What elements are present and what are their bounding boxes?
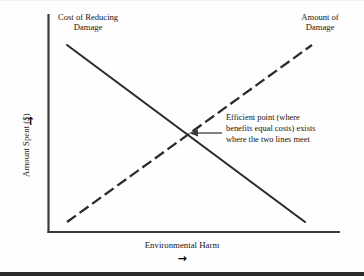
cost-of-reducing-damage-label: Cost of Reducing Damage [58,12,118,32]
damage-label-line-2: Damage [289,22,351,32]
page-bottom-edge [0,272,364,276]
x-axis-arrow-icon: → [0,253,364,266]
y-axis-arrow-icon: ↑ [26,116,35,129]
x-axis-label: Environmental Harm [0,240,364,250]
efficient-point-annotation: Efficient point (where benefits equal co… [226,112,316,145]
figure-canvas: Cost of Reducing Damage Amount of Damage… [0,0,364,280]
y-axis-label: Amount Spent ($) [21,75,31,215]
annotation-line-3: where the two lines meet [226,134,316,145]
cost-label-line-1: Cost of Reducing [58,12,118,22]
damage-label-line-1: Amount of [301,12,338,22]
annotation-line-2: benefits equal costs) exists [226,123,316,134]
cost-label-line-2: Damage [58,22,118,32]
amount-of-damage-label: Amount of Damage [289,12,351,32]
annotation-line-1: Efficient point (where [226,112,316,123]
